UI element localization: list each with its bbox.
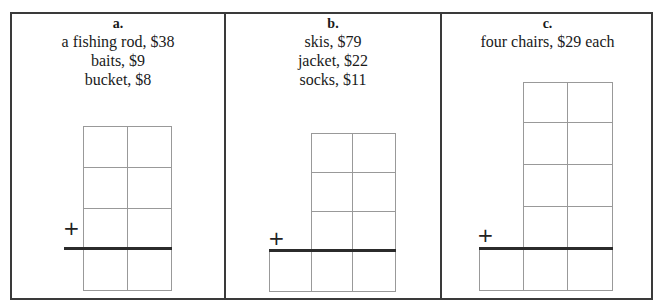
item-line: jacket, $22 <box>226 51 440 70</box>
answer-cell[interactable] <box>311 250 353 292</box>
sum-line <box>64 247 172 250</box>
answer-cell[interactable] <box>269 250 312 292</box>
item-line: a fishing rod, $38 <box>12 32 224 51</box>
item-line: bucket, $8 <box>12 70 224 89</box>
panel-b-text: b. skis, $79 jacket, $22 socks, $11 <box>226 16 440 89</box>
item-line: socks, $11 <box>226 70 440 89</box>
panel-a-text: a. a fishing rod, $38 baits, $9 bucket, … <box>12 16 224 89</box>
plus-sign: + <box>477 225 494 245</box>
grid-cell[interactable] <box>352 133 396 173</box>
panel-label: a. <box>12 16 224 32</box>
grid-cell[interactable] <box>523 122 568 165</box>
grid-cell[interactable] <box>83 126 128 168</box>
grid-cell[interactable] <box>523 206 568 249</box>
grid-cell[interactable] <box>567 206 613 249</box>
sum-line <box>479 247 613 250</box>
plus-sign: + <box>63 218 80 238</box>
grid-cell[interactable] <box>127 167 172 209</box>
plus-sign: + <box>268 228 285 248</box>
grid-cell[interactable] <box>311 172 353 212</box>
answer-cell[interactable] <box>127 248 172 291</box>
item-line: four chairs, $29 each <box>442 32 653 51</box>
grid-cell[interactable] <box>311 133 353 173</box>
grid-cell[interactable] <box>83 167 128 209</box>
item-line: skis, $79 <box>226 32 440 51</box>
answer-cell[interactable] <box>567 248 613 291</box>
grid-cell[interactable] <box>523 164 568 207</box>
grid-cell[interactable] <box>83 208 128 249</box>
grid-cell[interactable] <box>352 172 396 212</box>
grid-cell[interactable] <box>523 82 568 123</box>
grid-cell[interactable] <box>567 164 613 207</box>
panel-label: c. <box>442 16 653 32</box>
grid-cell[interactable] <box>127 208 172 249</box>
answer-cell[interactable] <box>523 248 568 291</box>
grid-cell[interactable] <box>567 82 613 123</box>
answer-cell[interactable] <box>352 250 396 292</box>
item-line: baits, $9 <box>12 51 224 70</box>
panel-divider <box>440 12 442 300</box>
answer-cell[interactable] <box>479 248 524 291</box>
panel-c-text: c. four chairs, $29 each <box>442 16 653 51</box>
grid-cell[interactable] <box>311 211 353 251</box>
grid-cell[interactable] <box>352 211 396 251</box>
grid-cell[interactable] <box>567 122 613 165</box>
answer-cell[interactable] <box>83 248 128 291</box>
panel-label: b. <box>226 16 440 32</box>
grid-cell[interactable] <box>127 126 172 168</box>
sum-line <box>269 249 396 252</box>
